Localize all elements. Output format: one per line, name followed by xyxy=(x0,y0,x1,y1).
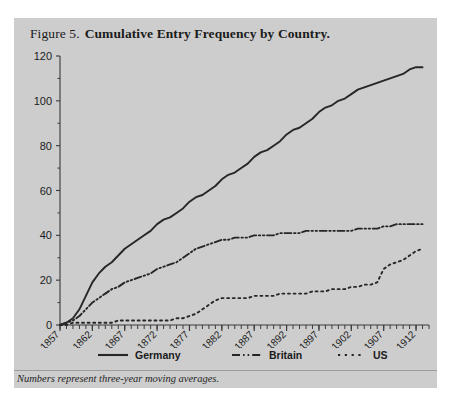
legend-label-us: US xyxy=(373,349,388,361)
figure-number: Figure 5. xyxy=(30,26,80,41)
legend-item-britain: Britain xyxy=(232,344,302,366)
series-line-britain xyxy=(60,224,423,325)
y-tick-label: 120 xyxy=(34,50,52,62)
legend-swatch-germany-solid-icon xyxy=(98,350,128,360)
chart-legend: Germany Britain US xyxy=(14,344,437,366)
y-tick-label: 80 xyxy=(40,140,52,152)
y-tick-label: 0 xyxy=(46,319,52,331)
y-tick-label: 20 xyxy=(40,274,52,286)
legend-label-germany: Germany xyxy=(135,349,181,361)
figure-caption-title: Cumulative Entry Frequency by Country. xyxy=(85,26,330,41)
chart-plot-area: 0204060801001201857186218671872187718821… xyxy=(14,48,437,348)
line-chart: 0204060801001201857186218671872187718821… xyxy=(14,48,437,348)
y-tick-label: 40 xyxy=(40,229,52,241)
legend-swatch-britain-dashdot-icon xyxy=(232,350,262,360)
legend-item-germany: Germany xyxy=(98,344,181,366)
figure-note: Numbers represent three-year moving aver… xyxy=(17,373,219,384)
legend-swatch-us-dotted-icon xyxy=(336,350,366,360)
figure-panel: Figure 5.Cumulative Entry Frequency by C… xyxy=(14,18,437,388)
figure-title: Figure 5.Cumulative Entry Frequency by C… xyxy=(30,26,330,42)
legend-item-us: US xyxy=(336,344,388,366)
y-tick-label: 100 xyxy=(34,95,52,107)
figure-footer-divider xyxy=(14,370,437,371)
y-tick-label: 60 xyxy=(40,185,52,197)
legend-label-britain: Britain xyxy=(269,349,302,361)
series-line-germany xyxy=(60,67,423,325)
